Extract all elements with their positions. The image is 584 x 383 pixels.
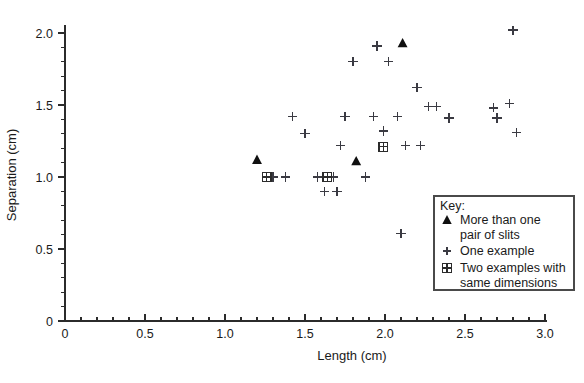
x-tick-label: 1.5 — [296, 327, 313, 341]
x-tick-label: 2.0 — [376, 327, 393, 341]
legend-label: Two examples with — [460, 261, 566, 275]
legend-label-line2: same dimensions — [460, 276, 557, 290]
chart-legend: Key: More than onepair of slitsOne examp… — [434, 196, 574, 290]
y-tick-label: 1.0 — [36, 171, 53, 185]
x-tick-label: 3.0 — [536, 327, 553, 341]
legend-title: Key: — [440, 199, 465, 213]
y-tick-label: 0 — [46, 315, 53, 329]
legend-label: More than one — [460, 213, 541, 227]
x-tick-label: 1.0 — [216, 327, 233, 341]
x-tick-label: 2.5 — [456, 327, 473, 341]
chart-canvas: 00.51.01.52.02.53.0 00.51.01.52.0 Length… — [0, 0, 584, 383]
legend-item: Two examples withsame dimensions — [443, 261, 566, 290]
legend-marker-square-cross — [443, 264, 451, 272]
data-point-square-cross — [379, 142, 388, 151]
data-point-square-cross — [323, 173, 332, 182]
scatter-chart: 00.51.01.52.02.53.0 00.51.01.52.0 Length… — [0, 0, 584, 383]
legend-label: One example — [460, 244, 534, 258]
y-tick-label: 2.0 — [36, 27, 53, 41]
y-tick-label: 1.5 — [36, 99, 53, 113]
data-point-square-cross — [262, 173, 271, 182]
x-tick-label: 0 — [62, 327, 69, 341]
legend-label-line2: pair of slits — [460, 228, 520, 242]
chart-background — [0, 0, 584, 383]
x-axis-title: Length (cm) — [317, 348, 386, 363]
x-tick-label: 0.5 — [136, 327, 153, 341]
y-tick-label: 0.5 — [36, 243, 53, 257]
y-axis-title: Separation (cm) — [4, 129, 19, 221]
